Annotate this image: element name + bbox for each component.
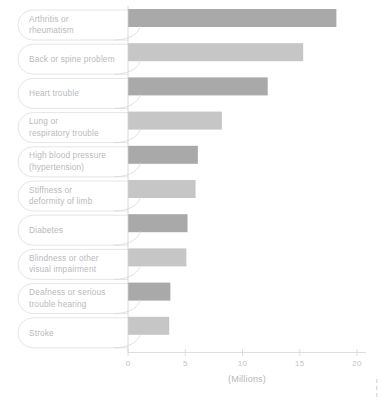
bar-chart: Arthritis orrheumatismBack or spine prob… [0, 0, 385, 406]
bar [128, 248, 186, 266]
x-axis-ticks: 05101520 [126, 349, 362, 368]
category-label-line: Stiffness or [29, 185, 72, 195]
chart-canvas: Arthritis orrheumatismBack or spine prob… [0, 0, 385, 406]
category-label-line: High blood pressure [29, 150, 106, 160]
category-label-line: deformity of limb [29, 196, 93, 206]
x-tick-label: 5 [183, 359, 188, 368]
label-hook-curve [114, 334, 140, 348]
label-hook-curve [114, 231, 140, 245]
label-hook-curve [114, 163, 140, 177]
bar [128, 214, 188, 232]
category-label-line: Arthritis or [29, 14, 69, 24]
category-label-line: Lung or [29, 116, 58, 126]
bar [128, 146, 198, 164]
x-tick-label: 0 [126, 359, 131, 368]
bar [128, 112, 222, 130]
category-label-line: Diabetes [29, 225, 63, 235]
category-label-line: Heart trouble [29, 88, 79, 98]
label-hook-curve [114, 197, 140, 211]
bar [128, 9, 336, 27]
x-tick-label: 20 [352, 359, 362, 368]
category-label-line: rheumatism [29, 25, 74, 35]
label-hook-curve [114, 60, 140, 74]
label-hook-curve [114, 265, 140, 279]
x-tick-label: 15 [295, 359, 305, 368]
category-label-line: Back or spine problem [29, 54, 115, 64]
bar-series [128, 9, 336, 335]
category-label-line: Deafness or serious [29, 287, 106, 297]
label-hook-curve [114, 300, 140, 314]
bar [128, 77, 268, 95]
label-hook-curve [114, 129, 140, 143]
bar [128, 43, 303, 61]
bar [128, 180, 196, 198]
label-hook-curve [114, 26, 140, 40]
bar [128, 317, 169, 335]
category-label-line: visual impairment [29, 264, 97, 274]
category-label-line: Blindness or other [29, 253, 99, 263]
category-label-line: trouble hearing [29, 299, 87, 309]
category-label-line: respiratory trouble [29, 128, 99, 138]
bar [128, 283, 170, 301]
x-tick-label: 10 [238, 359, 248, 368]
category-label-line: (hypertension) [29, 162, 84, 172]
label-hook-curve [114, 94, 140, 108]
category-label-line: Stroke [29, 328, 54, 338]
corner-marks-icon [373, 378, 381, 400]
x-axis-title: (Millions) [228, 374, 266, 384]
